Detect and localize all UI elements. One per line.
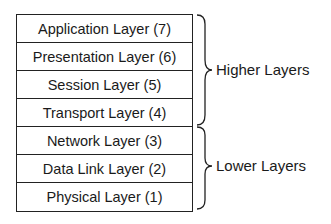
lower-layers-label: Lower Layers — [216, 157, 306, 174]
lower-layers-brace-icon — [197, 127, 212, 209]
higher-layers-label: Higher Layers — [216, 61, 309, 78]
grouping-braces — [0, 0, 331, 224]
higher-layers-brace-icon — [197, 15, 212, 125]
